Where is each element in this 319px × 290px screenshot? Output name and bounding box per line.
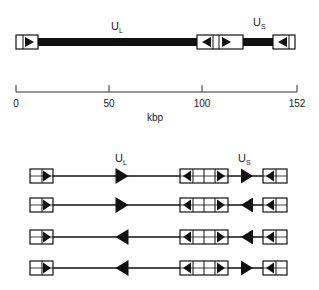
ul-orientation-arrow-icon [116,197,129,213]
isomer-row [30,168,287,184]
internal-repeat-box [180,169,228,183]
internal-repeat-box [180,230,228,244]
terminal-repeat-right [263,198,287,212]
ul-orientation-arrow-icon [116,260,129,276]
us-orientation-arrow-icon [241,261,253,276]
ul-orientation-arrow-icon [116,229,129,245]
internal-repeat-box [197,35,243,49]
genome-map: UL US [16,16,295,49]
terminal-repeat-right [273,35,295,49]
isomer-label-ul: UL [115,152,127,166]
terminal-repeat-right [263,230,287,244]
isomers: UL US [30,152,287,276]
terminal-repeat-right [263,169,287,183]
us-orientation-arrow-icon [241,198,253,213]
label-ul: UL [111,20,123,34]
isomer-row [30,197,287,213]
isomer-row [30,229,287,245]
label-us: US [253,16,266,30]
terminal-repeat-left [30,230,53,244]
terminal-repeat-left [30,169,53,183]
us-orientation-arrow-icon [241,230,253,245]
terminal-repeat-left [30,198,53,212]
terminal-repeat-left [30,261,53,275]
terminal-repeat-right [263,261,287,275]
terminal-repeat-left [16,35,38,49]
isomer-row [30,260,287,276]
tick-label-100: 100 [194,98,211,109]
tick-label-50: 50 [103,98,115,109]
tick-label-152: 152 [289,98,306,109]
tick-label-0: 0 [13,98,19,109]
us-orientation-arrow-icon [241,169,253,184]
axis-unit-label: kbp [147,112,164,123]
ul-orientation-arrow-icon [116,168,129,184]
internal-repeat-box [180,261,228,275]
isomer-label-us: US [238,152,251,166]
genome-diagram: UL US 0 50 100 152 kbp UL US [0,0,319,290]
scale-axis: 0 50 100 152 kbp [13,85,306,123]
internal-repeat-box [180,198,228,212]
